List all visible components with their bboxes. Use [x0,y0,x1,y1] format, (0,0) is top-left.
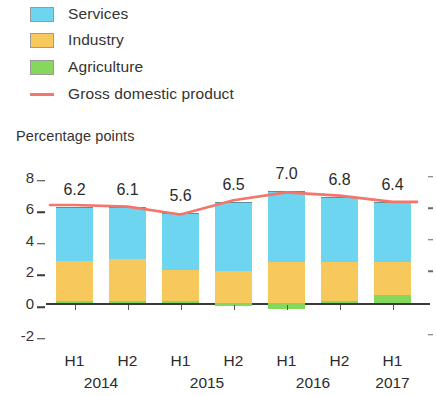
y-axis-tick-mark [37,275,45,277]
bar-segment-industry[interactable] [268,262,305,303]
bar-segment-agriculture[interactable] [374,295,411,303]
x-axis-label-half: H1 [277,352,297,370]
bar-segment-industry[interactable] [56,261,93,301]
bar-value-label: 6.8 [328,171,350,189]
right-axis-tick-mark [428,176,433,178]
y-axis-tick-mark [37,211,45,213]
x-axis-label-year: 2015 [190,374,224,392]
x-axis-label-half: H1 [383,352,403,370]
bar-segment-services[interactable] [321,197,358,262]
y-axis-tick-mark [37,243,45,245]
x-axis-label-half: H2 [330,352,350,370]
bar-value-label: 6.1 [116,181,138,199]
y-axis-tick-mark [37,338,45,340]
bar-segment-agriculture[interactable] [56,301,93,303]
y-axis-tick-mark [37,306,45,308]
bar-stack[interactable] [215,202,252,303]
bar-segment-services[interactable] [215,202,252,272]
bar-stack[interactable] [109,207,146,303]
bar-segment-services[interactable] [162,213,199,270]
x-axis-tick-mark [340,305,342,310]
x-axis-label-year: 2016 [296,374,330,392]
bar-segment-industry[interactable] [374,262,411,295]
chart-figure: Services Industry Agriculture Gross dome… [0,0,436,396]
y-axis-tick-label: 0 [0,295,34,312]
x-axis-tick-mark [287,305,289,310]
x-axis-label-year: 2014 [84,374,118,392]
bar-segment-services[interactable] [109,207,146,259]
plot-area: 86420-26.2H16.1H25.6H16.5H27.0H16.8H26.4… [0,0,436,396]
x-axis-tick-mark [234,305,236,310]
bar-segment-agriculture[interactable] [321,301,358,303]
bar-value-label: 6.5 [222,176,244,194]
bar-value-label: 6.4 [381,176,403,194]
x-axis-tick-mark [128,305,130,310]
x-axis-label-half: H2 [118,352,138,370]
right-axis-tick-mark [428,239,433,241]
bar-stack[interactable] [321,197,358,303]
bar-value-label: 5.6 [169,187,191,205]
right-axis-tick-mark [428,334,433,336]
bar-value-label: 6.2 [63,181,85,199]
bar-segment-industry[interactable] [215,271,252,303]
x-axis-label-half: H1 [171,352,191,370]
y-axis-tick-label: 8 [0,168,34,185]
bar-segment-industry[interactable] [109,259,146,302]
bar-segment-services[interactable] [268,191,305,262]
bar-segment-industry[interactable] [321,262,358,302]
y-axis-tick-label: 4 [0,231,34,248]
bar-stack[interactable] [162,213,199,303]
x-axis-label-half: H1 [65,352,85,370]
right-axis-tick-mark [428,271,433,273]
x-axis-label-year: 2017 [375,374,409,392]
bar-value-label: 7.0 [275,165,297,183]
y-axis-tick-label: 2 [0,263,34,280]
y-axis-tick-mark [37,180,45,182]
x-axis-label-half: H2 [224,352,244,370]
y-axis-tick-label: -2 [0,326,34,343]
bar-stack[interactable] [56,207,93,303]
x-axis-tick-mark [393,305,395,310]
x-axis-tick-mark [75,305,77,310]
bar-stack[interactable] [268,191,305,303]
bar-segment-services[interactable] [374,202,411,262]
right-axis-tick-mark [428,207,433,209]
bar-segment-agriculture[interactable] [109,301,146,303]
y-axis-tick-label: 6 [0,200,34,217]
bar-segment-agriculture[interactable] [162,301,199,303]
x-axis-tick-mark [181,305,183,310]
bar-stack[interactable] [374,202,411,303]
bar-segment-industry[interactable] [162,270,199,302]
bar-segment-services[interactable] [56,207,93,261]
